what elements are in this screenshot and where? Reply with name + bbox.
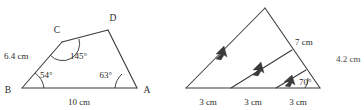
base-segment-label-1: 3 cm [199,97,217,107]
side-label-7cm: 7 cm [295,37,313,47]
triangle-parallel-figure: 3 cm 3 cm 3 cm 7 cm 70° 4.2 cm [186,8,361,107]
side-label-ba: 10 cm [68,97,90,107]
base-segment-label-2: 3 cm [244,97,262,107]
vertex-label-c: C [54,25,60,35]
vertex-label-a: A [144,85,151,95]
vertex-label-b: B [5,85,11,95]
angle-label-a: 63° [99,70,112,80]
triangle-left-side [186,8,265,88]
quadrilateral-figure: B C D A 6.4 cm 10 cm 54° 145° 63° [4,13,151,107]
angle-label-b: 54° [40,70,53,80]
angle-label-70: 70° [299,77,312,87]
vertex-label-d: D [110,13,117,23]
segment-da [108,30,137,88]
segment-cd [62,30,108,42]
base-segment-label-3: 3 cm [289,97,307,107]
angle-arc-a [115,74,122,88]
edge-label-4-2cm: 4.2 cm [336,54,361,64]
side-label-bc: 6.4 cm [4,51,29,61]
angle-label-c: 145° [70,51,88,61]
parallel-arrow-marker-3 [284,75,295,87]
geometry-figures-canvas: B C D A 6.4 cm 10 cm 54° 145° 63° 3 cm 3… [0,0,364,110]
parallel-arrow-marker-2 [253,62,264,76]
